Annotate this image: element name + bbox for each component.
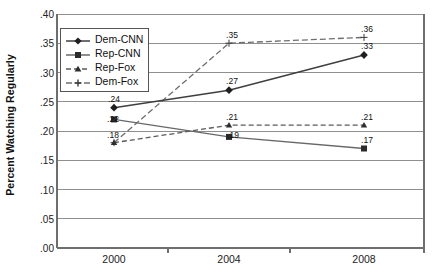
- line-chart: Percent Watching Regularly .40 .35 .30 .…: [0, 0, 436, 279]
- data-label-dem-cnn-2000: .24: [108, 94, 120, 104]
- legend-key-diamond-icon: [65, 33, 91, 45]
- data-label-rep-fox-2008: .21: [361, 112, 373, 122]
- data-label-rep-fox-2004: .21: [226, 112, 238, 122]
- data-label-rep-cnn-2000: .22: [107, 114, 119, 124]
- x-tick-label-2000: 2000: [102, 253, 125, 265]
- legend-key-triangle-icon: [65, 61, 91, 73]
- chart-legend: Dem-CNN Rep-CNN Rep-Fox: [60, 28, 149, 92]
- legend-label-rep-cnn: Rep-CNN: [95, 47, 141, 59]
- x-axis-ticks: [168, 248, 424, 253]
- legend-label-dem-cnn: Dem-CNN: [95, 33, 143, 45]
- data-label-dem-cnn-2008: .33: [361, 41, 373, 51]
- data-label-rep-cnn-2008: .17: [361, 135, 373, 145]
- legend-key-square-icon: [65, 47, 91, 59]
- legend-item-rep-cnn: Rep-CNN: [65, 46, 143, 60]
- legend-item-dem-fox: Dem-Fox: [65, 74, 143, 88]
- legend-label-dem-fox: Dem-Fox: [95, 75, 138, 87]
- x-tick-label-2008: 2008: [352, 253, 375, 265]
- legend-label-rep-fox: Rep-Fox: [95, 61, 135, 73]
- data-label-rep-fox-2000: .18: [107, 130, 119, 140]
- data-label-dem-fox-2008: .36: [361, 24, 373, 34]
- data-label-rep-cnn-2004: .19: [227, 130, 239, 140]
- data-label-dem-cnn-2004: .27: [226, 76, 238, 86]
- legend-item-dem-cnn: Dem-CNN: [65, 32, 143, 46]
- data-label-dem-fox-2004: .35: [226, 30, 238, 40]
- legend-key-cross-icon: [65, 75, 91, 87]
- legend-item-rep-fox: Rep-Fox: [65, 60, 143, 74]
- x-tick-label-2004: 2004: [217, 253, 240, 265]
